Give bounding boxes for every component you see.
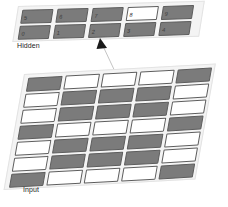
- input-cell-r4c2[interactable]: [89, 136, 126, 152]
- input-cell-r0c0[interactable]: [26, 76, 63, 92]
- input-cell-r4c0[interactable]: [15, 140, 52, 156]
- hidden-unit-label: 3: [126, 24, 131, 38]
- input-layer-panel: [4, 63, 216, 190]
- hidden-unit-1[interactable]: 1: [53, 24, 86, 39]
- input-cell-r0c1[interactable]: [63, 74, 100, 90]
- hidden-unit-6[interactable]: 6: [55, 8, 88, 23]
- hidden-unit-7[interactable]: 7: [90, 7, 123, 22]
- input-cell-r0c4[interactable]: [175, 68, 212, 84]
- hidden-unit-label: 5: [23, 11, 28, 25]
- input-cell-r0c3[interactable]: [138, 70, 175, 86]
- input-cell-r5c1[interactable]: [49, 154, 86, 170]
- hidden-unit-label: 8: [128, 8, 133, 22]
- input-cell-r5c4[interactable]: [161, 148, 198, 164]
- input-cell-r6c2[interactable]: [84, 168, 121, 184]
- hidden-unit-9[interactable]: 9: [161, 5, 194, 20]
- hidden-layer-panel: 5 6 7 8 9 0 1 2 3 4: [12, 1, 205, 42]
- hidden-unit-label: 6: [58, 10, 63, 24]
- hidden-unit-label: 0: [20, 27, 25, 41]
- hidden-unit-8[interactable]: 8: [126, 6, 159, 21]
- input-cell-r5c2[interactable]: [86, 152, 123, 168]
- input-cell-r4c4[interactable]: [164, 132, 201, 148]
- input-cell-r5c0[interactable]: [12, 156, 49, 172]
- input-cell-r6c3[interactable]: [121, 166, 158, 182]
- hidden-unit-label: 7: [93, 9, 98, 23]
- input-cell-r6c1[interactable]: [46, 170, 83, 186]
- input-layer-grid: [9, 68, 212, 188]
- hidden-unit-label: 4: [161, 23, 166, 37]
- input-cell-r1c4[interactable]: [173, 84, 210, 100]
- input-cell-r4c3[interactable]: [127, 134, 164, 150]
- input-cell-r5c3[interactable]: [124, 150, 161, 166]
- hidden-unit-label: 9: [164, 7, 169, 21]
- input-cell-r3c0[interactable]: [17, 124, 54, 140]
- input-cell-r3c3[interactable]: [130, 118, 167, 134]
- hidden-unit-3[interactable]: 3: [123, 22, 156, 37]
- hidden-unit-0[interactable]: 0: [18, 25, 51, 40]
- hidden-unit-label: 1: [56, 26, 61, 40]
- input-cell-r1c0[interactable]: [23, 92, 60, 108]
- input-cell-r2c0[interactable]: [20, 108, 57, 124]
- input-cell-r6c4[interactable]: [158, 164, 195, 180]
- hidden-unit-2[interactable]: 2: [88, 23, 121, 38]
- input-cell-r0c2[interactable]: [101, 72, 138, 88]
- network-layer-diagram: 5 6 7 8 9 0 1 2 3 4 Hidden: [0, 0, 228, 207]
- input-layer-label: Input: [23, 186, 39, 193]
- input-cell-r1c2[interactable]: [98, 88, 135, 104]
- hidden-unit-4[interactable]: 4: [158, 21, 191, 36]
- input-cell-r2c2[interactable]: [95, 104, 132, 120]
- input-cell-r3c1[interactable]: [55, 122, 92, 138]
- hidden-unit-label: 2: [91, 25, 96, 39]
- hidden-layer-label: Hidden: [17, 42, 40, 49]
- input-cell-r3c4[interactable]: [167, 116, 204, 132]
- hidden-unit-5[interactable]: 5: [20, 9, 53, 24]
- input-cell-r1c3[interactable]: [135, 86, 172, 102]
- input-cell-r2c3[interactable]: [132, 102, 169, 118]
- input-cell-r4c1[interactable]: [52, 138, 89, 154]
- input-cell-r3c2[interactable]: [92, 120, 129, 136]
- connector-arrowhead-icon: [97, 38, 108, 49]
- input-cell-r2c4[interactable]: [170, 100, 207, 116]
- input-cell-r2c1[interactable]: [58, 106, 95, 122]
- input-cell-r1c1[interactable]: [60, 90, 97, 106]
